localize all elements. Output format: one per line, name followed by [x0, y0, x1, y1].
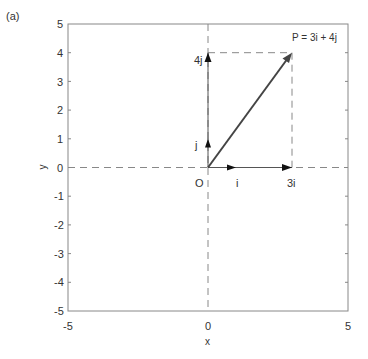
j-label: j: [195, 140, 197, 151]
y-tick-label: 4: [57, 48, 63, 59]
y-tick-label: -5: [54, 306, 64, 317]
p-equation-label: P = 3i + 4j: [292, 33, 337, 43]
y-tick-label: -3: [54, 249, 64, 260]
y-tick-label: 0: [57, 163, 63, 174]
x-tick-label: 5: [345, 321, 351, 332]
three-i-arrowhead: [282, 164, 292, 171]
panel-label: (a): [6, 11, 19, 22]
four-j-label: 4j: [194, 55, 203, 66]
four-j-arrowhead: [205, 53, 212, 62]
x-tick-label: 0: [205, 321, 211, 332]
p-vector: [208, 58, 288, 168]
j-arrowhead: [205, 139, 211, 148]
y-axis-label: y: [38, 165, 48, 170]
y-tick-label: 2: [57, 105, 63, 116]
i-arrowhead: [227, 165, 236, 171]
y-tick-label: -2: [54, 220, 64, 231]
x-tick-label: -5: [63, 321, 73, 332]
y-tick-label: 1: [57, 134, 63, 145]
y-tick-label: 5: [57, 19, 63, 30]
p-arrowhead: [283, 53, 293, 63]
y-tick-label: 3: [57, 77, 63, 88]
origin-label: O: [195, 178, 204, 189]
y-tick-label: -1: [54, 191, 64, 202]
three-i-label: 3i: [287, 178, 296, 189]
x-axis-label: x: [205, 337, 210, 347]
y-tick-label: -4: [54, 277, 64, 288]
i-label: i: [236, 178, 238, 189]
